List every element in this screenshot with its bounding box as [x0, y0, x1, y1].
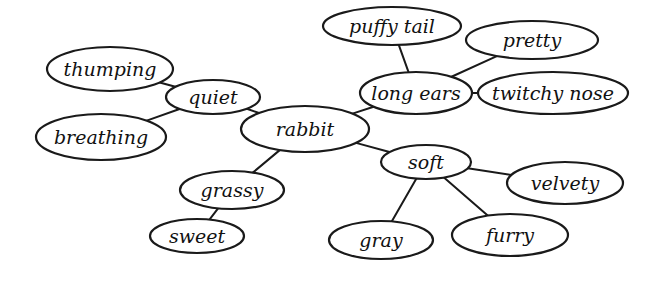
node-label: long ears: [371, 82, 461, 104]
node-label: rabbit: [276, 118, 335, 140]
node-gray: gray: [329, 221, 433, 259]
edge-soft-velvety: [468, 168, 512, 175]
edge-soft-gray: [392, 179, 417, 222]
edge-soft-furry: [444, 178, 488, 216]
node-label: thumping: [64, 58, 157, 80]
node-sweet: sweet: [150, 219, 244, 253]
edge-breathing-quiet: [147, 109, 180, 121]
node-label: quiet: [188, 86, 238, 108]
node-label: puffy tail: [349, 15, 435, 37]
edge-long_ears-puffy_tail: [399, 45, 409, 72]
node-puffy-tail: puffy tail: [323, 7, 461, 45]
node-long-ears: long ears: [360, 72, 472, 114]
node-breathing: breathing: [36, 114, 166, 160]
node-label: breathing: [54, 126, 148, 148]
edge-rabbit-long_ears: [353, 107, 374, 114]
edge-rabbit-soft: [356, 143, 390, 152]
node-label: soft: [408, 151, 444, 173]
node-pretty: pretty: [466, 21, 598, 59]
edge-rabbit-grassy: [253, 150, 280, 172]
node-velvety: velvety: [507, 162, 623, 204]
node-label: sweet: [169, 225, 226, 247]
node-soft: soft: [381, 145, 471, 179]
edge-thumping-quiet: [160, 83, 176, 87]
edge-long_ears-pretty: [452, 56, 497, 77]
node-twitchy-nose: twitchy nose: [478, 72, 628, 114]
node-grassy: grassy: [180, 171, 284, 209]
edge-grassy-sweet: [209, 208, 218, 219]
node-quiet: quiet: [166, 80, 260, 114]
node-label: velvety: [531, 172, 600, 194]
edge-quiet-rabbit: [247, 109, 259, 113]
node-label: gray: [359, 229, 403, 251]
node-rabbit: rabbit: [241, 106, 369, 152]
node-label: pretty: [503, 29, 562, 51]
concept-map-canvas: thumpingquietbreathingrabbitgrassysweetp…: [0, 0, 658, 286]
node-furry: furry: [452, 214, 568, 256]
node-layer: thumpingquietbreathingrabbitgrassysweetp…: [36, 7, 628, 259]
node-thumping: thumping: [47, 47, 173, 91]
node-label: grassy: [201, 179, 264, 201]
node-label: twitchy nose: [492, 82, 614, 104]
concept-map: thumpingquietbreathingrabbitgrassysweetp…: [0, 0, 658, 286]
node-label: furry: [484, 224, 534, 246]
